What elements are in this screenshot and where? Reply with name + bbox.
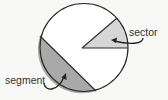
sector-label: sector [129,26,158,38]
circle-diagram: sector segment [0,0,168,100]
segment-label: segment [5,74,45,86]
